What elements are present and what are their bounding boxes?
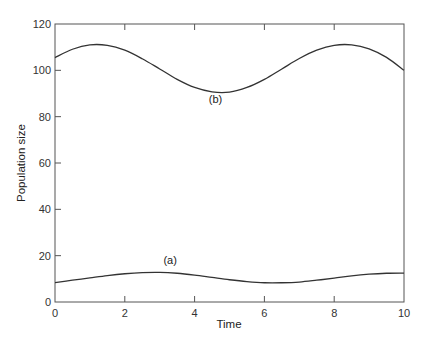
y-tick-label: 80 xyxy=(39,111,51,123)
line-chart: 0246810 020406080100120 (b)(a) Time Popu… xyxy=(0,0,429,347)
plot-frame xyxy=(55,24,404,302)
x-tick-label: 6 xyxy=(261,307,267,319)
x-axis-title: Time xyxy=(216,318,241,330)
x-tick-label: 8 xyxy=(331,307,337,319)
y-tick-label: 60 xyxy=(39,157,51,169)
series-layer: (b)(a) xyxy=(55,44,404,282)
series-label-a: (a) xyxy=(163,254,176,266)
series-line-b xyxy=(55,44,404,92)
x-tick-label: 2 xyxy=(122,307,128,319)
series-label-b: (b) xyxy=(209,93,222,105)
series-line-a xyxy=(55,272,404,283)
x-tick-label: 4 xyxy=(192,307,198,319)
y-axis-ticks: 020406080100120 xyxy=(33,18,61,308)
y-tick-label: 120 xyxy=(33,18,51,30)
y-tick-label: 20 xyxy=(39,250,51,262)
y-tick-label: 100 xyxy=(33,64,51,76)
x-tick-label: 0 xyxy=(52,307,58,319)
x-tick-label: 10 xyxy=(398,307,410,319)
y-axis-title: Population size xyxy=(15,124,27,202)
y-tick-label: 40 xyxy=(39,203,51,215)
y-tick-label: 0 xyxy=(45,296,51,308)
